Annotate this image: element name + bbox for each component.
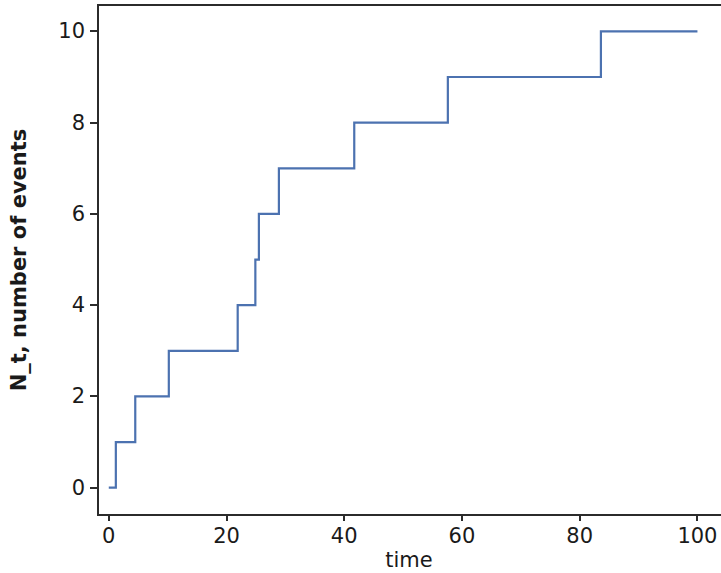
y-tick-label: 8 (72, 112, 85, 133)
x-tick-label: 0 (102, 526, 115, 547)
figure-canvas: N_t, number of events 0246810 0204060801… (0, 0, 721, 573)
y-tick-mark (90, 487, 97, 489)
x-tick-label: 60 (449, 526, 476, 547)
y-tick-label: 2 (72, 386, 85, 407)
y-tick-mark (90, 304, 97, 306)
y-tick-mark (90, 122, 97, 124)
y-tick-label: 6 (72, 203, 85, 224)
y-tick-label: 0 (72, 477, 85, 498)
x-tick-label: 40 (331, 526, 358, 547)
y-tick-label: 10 (58, 21, 85, 42)
y-tick-mark (90, 213, 97, 215)
y-axis-label: N_t, number of events (6, 0, 32, 520)
plot-axes: 0246810 020406080100 (97, 4, 721, 516)
x-tick-label: 100 (677, 526, 717, 547)
x-axis-label: time (97, 550, 721, 571)
y-tick-label: 4 (72, 295, 85, 316)
x-tick-label: 80 (566, 526, 593, 547)
y-tick-mark (90, 395, 97, 397)
step-line-chart (97, 4, 721, 516)
step-line-series (109, 31, 698, 487)
y-tick-mark (90, 30, 97, 32)
x-tick-label: 20 (213, 526, 240, 547)
y-axis-label-text: N_t, number of events (7, 129, 31, 392)
